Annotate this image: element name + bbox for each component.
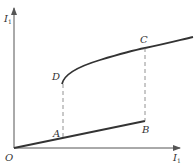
x-axis-label-sub: 1 xyxy=(177,157,181,164)
lower-branch-line xyxy=(14,121,145,148)
point-label-A: A xyxy=(53,129,60,139)
point-label-B: B xyxy=(142,125,149,135)
upper-branch-curve xyxy=(62,37,193,84)
hysteresis-diagram xyxy=(0,0,195,166)
x-axis-label: I1 xyxy=(173,153,181,164)
y-axis-label-sub: 1 xyxy=(8,18,12,25)
origin-label: O xyxy=(5,153,13,163)
point-label-D: D xyxy=(52,72,60,82)
y-axis-label: I1 xyxy=(4,14,12,25)
point-label-C: C xyxy=(140,35,148,45)
